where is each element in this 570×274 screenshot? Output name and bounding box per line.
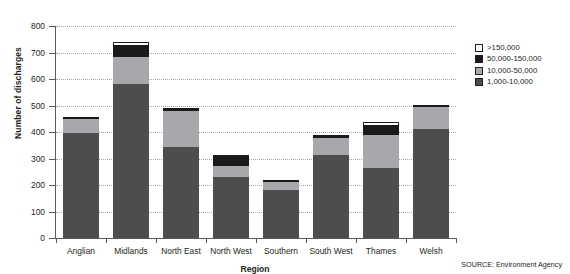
bar-south-west[interactable] — [313, 135, 349, 238]
legend-swatch-icon — [475, 78, 483, 86]
plot-area: 0100200300400500600700800AnglianMidlands… — [55, 26, 456, 239]
x-axis-tick — [306, 238, 307, 243]
legend-label: 10,000-50,000 — [487, 67, 537, 75]
y-axis-title: Number of discharges — [13, 23, 23, 163]
y-axis-tick-label: 100 — [31, 207, 45, 217]
bar-segment — [213, 156, 249, 166]
bar-segment — [363, 135, 399, 168]
legend-swatch-icon — [475, 67, 483, 75]
y-axis-tick — [49, 238, 55, 239]
bar-segment — [313, 155, 349, 238]
x-axis-tick-label: North East — [161, 246, 201, 256]
x-axis-tick — [356, 238, 357, 243]
x-axis-tick — [256, 238, 257, 243]
y-axis-tick-label: 700 — [31, 48, 45, 58]
bar-segment — [63, 133, 99, 238]
y-axis-tick-label: 200 — [31, 180, 45, 190]
legend-item[interactable]: >150,000 — [475, 44, 542, 52]
y-axis-tick-label: 600 — [31, 74, 45, 84]
x-axis-tick — [456, 238, 457, 243]
y-axis-tick — [49, 212, 55, 213]
y-axis-tick — [49, 26, 55, 27]
legend-item[interactable]: 50,000-150,000 — [475, 55, 542, 63]
legend-label: 50,000-150,000 — [487, 55, 542, 63]
legend-label: >150,000 — [487, 44, 520, 52]
legend-swatch-icon — [475, 55, 483, 63]
bar-segment — [363, 125, 399, 134]
legend-label: 1,000-10,000 — [487, 78, 533, 86]
bar-southern[interactable] — [263, 180, 299, 238]
y-axis-tick-label: 800 — [31, 21, 45, 31]
bar-anglian[interactable] — [63, 117, 99, 238]
legend-swatch-icon — [475, 44, 483, 52]
y-axis-tick — [49, 106, 55, 107]
bar-segment — [413, 107, 449, 130]
x-axis-tick — [156, 238, 157, 243]
source-note: SOURCE: Environment Agency — [461, 260, 562, 269]
x-axis-tick-label: Midlands — [114, 246, 148, 256]
x-axis-tick — [106, 238, 107, 243]
y-axis-tick — [49, 159, 55, 160]
bar-segment — [163, 147, 199, 238]
y-axis-tick-label: 0 — [40, 233, 45, 243]
x-axis-title: Region — [55, 264, 455, 274]
legend-item[interactable]: 10,000-50,000 — [475, 67, 542, 75]
x-axis-tick-label: North West — [210, 246, 252, 256]
y-axis-tick-label: 300 — [31, 154, 45, 164]
bar-segment — [263, 182, 299, 190]
y-axis-tick — [49, 132, 55, 133]
x-axis-tick-label: Welsh — [419, 246, 442, 256]
bar-segment — [313, 138, 349, 155]
bar-segment — [213, 166, 249, 177]
bar-segment — [363, 168, 399, 238]
bar-north-west[interactable] — [213, 155, 249, 238]
chart-container: Number of discharges 0100200300400500600… — [0, 0, 570, 274]
bar-segment — [213, 177, 249, 238]
bar-segment — [63, 119, 99, 134]
y-axis-tick — [49, 53, 55, 54]
y-axis-tick — [49, 79, 55, 80]
bar-segment — [113, 84, 149, 238]
bar-welsh[interactable] — [413, 105, 449, 238]
bar-segment — [163, 111, 199, 146]
bar-segment — [113, 45, 149, 57]
bar-thames[interactable] — [363, 122, 399, 238]
bar-segment — [263, 190, 299, 238]
bar-segment — [413, 129, 449, 238]
legend-item[interactable]: 1,000-10,000 — [475, 78, 542, 86]
x-axis-tick — [406, 238, 407, 243]
x-axis-tick-label: South West — [309, 246, 352, 256]
gridline — [56, 26, 456, 27]
y-axis-tick-label: 500 — [31, 101, 45, 111]
x-axis-tick-label: Thames — [366, 246, 396, 256]
x-axis-tick-label: Anglian — [67, 246, 95, 256]
x-axis-tick-label: Southern — [264, 246, 298, 256]
x-axis-tick — [56, 238, 57, 243]
y-axis-tick — [49, 185, 55, 186]
bar-midlands[interactable] — [113, 42, 149, 238]
y-axis-tick-label: 400 — [31, 127, 45, 137]
bar-north-east[interactable] — [163, 108, 199, 238]
bar-segment — [113, 57, 149, 85]
chart-legend: >150,00050,000-150,00010,000-50,0001,000… — [475, 44, 542, 90]
x-axis-tick — [206, 238, 207, 243]
